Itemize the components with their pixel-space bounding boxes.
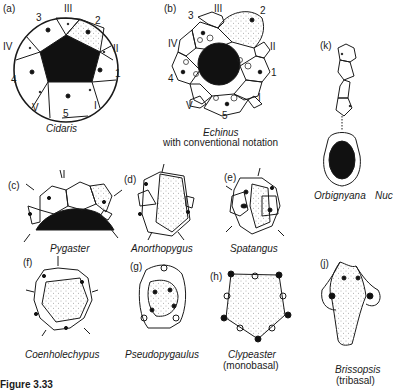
- interamb-3-b: 3: [188, 10, 194, 21]
- genus-name-cidaris: Cidaris: [46, 123, 77, 134]
- clypeaster-disc-drawing: [221, 271, 291, 342]
- amb-II-b: II: [270, 41, 276, 52]
- interamb-2-a: 2: [95, 15, 101, 26]
- clypeaster-note: (monobasal): [223, 360, 279, 371]
- amb-II-a: II: [113, 43, 119, 54]
- amb-I-b: I: [258, 92, 261, 103]
- amb-III-b: III: [214, 3, 222, 14]
- notation-note: with conventional notation: [163, 137, 278, 148]
- genus-name-clypeaster: Clypeaster: [228, 349, 276, 360]
- interamb-5-b: 5: [222, 110, 228, 121]
- interamb-1-a: 1: [115, 68, 121, 79]
- coenholechypus-disc-drawing: [26, 256, 98, 336]
- genus-name-anorthopygus: Anorthopygus: [131, 243, 193, 254]
- interamb-4-a: 4: [11, 74, 17, 85]
- genus-name-pygaster: Pygaster: [50, 243, 89, 254]
- genus-name-nuc-clipped: Nuc: [375, 190, 393, 201]
- panel-label-g: (g): [130, 261, 142, 272]
- amb-IV-a: IV: [3, 41, 12, 52]
- cidaris-disc-drawing: [14, 18, 118, 122]
- amb-IV-b: IV: [168, 38, 177, 49]
- panel-label-b: (b): [164, 3, 176, 14]
- genus-name-orbignyana: Orbignyana: [314, 190, 366, 201]
- genus-name-pseudopygaulus: Pseudopygaulus: [125, 349, 199, 360]
- panel-label-c: (c): [8, 180, 20, 191]
- panel-label-d: (d): [124, 174, 136, 185]
- amb-V-b: V: [186, 100, 193, 111]
- interamb-3-a: 3: [36, 12, 42, 23]
- genus-name-coenholechypus: Coenholechypus: [25, 349, 100, 360]
- anorthopygus-disc-drawing: [138, 164, 194, 240]
- amb-V-a: V: [32, 102, 39, 113]
- brissopsis-note: (tribasal): [336, 375, 375, 386]
- interamb-1-b: 1: [271, 67, 277, 78]
- genus-name-spatangus: Spatangus: [230, 243, 278, 254]
- orbignyana-disc-drawing: [324, 44, 361, 186]
- brissopsis-disc-drawing: [322, 262, 380, 345]
- amb-III-a: III: [64, 3, 72, 14]
- panel-label-j: (j): [320, 258, 329, 269]
- panel-label-a: (a): [3, 3, 15, 14]
- panel-label-h: (h): [210, 271, 222, 282]
- interamb-5-a: 5: [63, 108, 69, 119]
- interamb-4-b: 4: [168, 73, 174, 84]
- pygaster-disc-drawing: [24, 170, 122, 242]
- amb-I-a: I: [94, 100, 97, 111]
- figure-caption-clipped: Figure 3.33: [0, 379, 53, 390]
- panel-label-e: (e): [224, 172, 236, 183]
- genus-name-brissopsis: Brissopsis: [335, 364, 381, 375]
- panel-label-f: (f): [23, 257, 32, 268]
- panel-label-k: (k): [320, 40, 332, 51]
- interamb-2-b: 2: [260, 5, 266, 16]
- pseudopygaulus-disc-drawing: [139, 265, 185, 328]
